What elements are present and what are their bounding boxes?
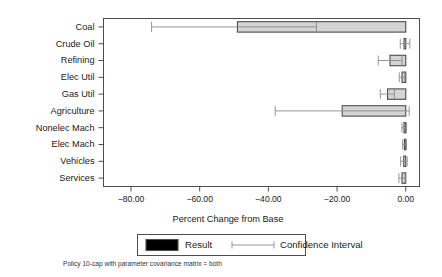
- y-tick-label-agriculture: Agriculture: [51, 106, 95, 116]
- y-tick-label-services: Services: [59, 173, 95, 183]
- legend-label-confidence-interval: Confidence Interval: [280, 239, 363, 250]
- legend-label-result: Result: [185, 239, 213, 250]
- plot-area-frame: [104, 19, 420, 187]
- y-tick-label-elec-mach: Elec Mach: [52, 139, 95, 149]
- chart-figure: CoalCrude OilRefiningElec UtilGas UtilAg…: [0, 0, 442, 277]
- x-tick-label: −40.00: [255, 194, 282, 204]
- x-tick-label: −60.00: [186, 194, 213, 204]
- y-tick-label-crude-oil: Crude Oil: [56, 39, 95, 49]
- y-tick-label-vehicles: Vehicles: [60, 156, 95, 166]
- legend-swatch-result: [146, 240, 178, 251]
- x-tick-label: −80.00: [118, 194, 145, 204]
- x-axis-title: Percent Change from Base: [173, 214, 284, 224]
- x-tick-label: −20.00: [324, 194, 351, 204]
- y-tick-label-refining: Refining: [61, 55, 95, 65]
- x-tick-label: 0.00: [397, 194, 414, 204]
- y-tick-label-nonelec-mach: Nonelec Mach: [36, 123, 95, 133]
- y-tick-label-coal: Coal: [76, 22, 95, 32]
- y-tick-label-elec-util: Elec Util: [61, 72, 95, 82]
- chart-caption: Policy 10-cap with parameter covariance …: [63, 260, 222, 268]
- bar-chart-svg: CoalCrude OilRefiningElec UtilGas UtilAg…: [0, 0, 442, 277]
- y-tick-label-gas-util: Gas Util: [62, 89, 95, 99]
